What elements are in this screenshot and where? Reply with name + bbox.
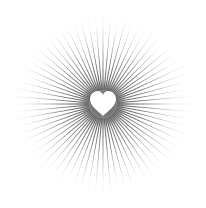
- ray: [111, 27, 158, 93]
- ray: [17, 109, 90, 144]
- ray: [107, 117, 136, 194]
- ray: [116, 108, 193, 137]
- ray: [17, 64, 90, 99]
- ray: [102, 8, 103, 90]
- heart-sunburst-illustration: [0, 0, 206, 208]
- ray: [112, 42, 164, 94]
- ray: [114, 112, 182, 160]
- ray: [116, 72, 191, 100]
- ray: [18, 108, 91, 135]
- ray: [117, 103, 189, 104]
- ray: [72, 117, 99, 190]
- ray: [107, 16, 135, 91]
- ray: [14, 103, 89, 104]
- ray: [47, 25, 95, 93]
- ray: [111, 115, 158, 181]
- ray: [112, 113, 166, 167]
- ray: [102, 118, 103, 197]
